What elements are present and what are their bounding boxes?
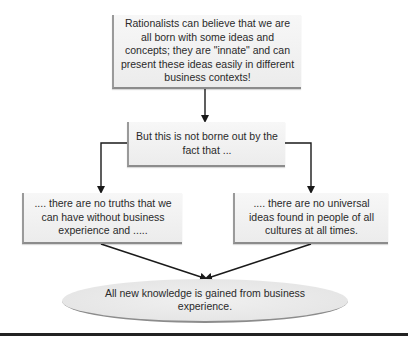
right-box: .... there are no universal ideas found … xyxy=(233,193,388,244)
left-box: .... there are no truths that we can hav… xyxy=(22,193,182,244)
middle-box-text: But this is not borne out by the fact th… xyxy=(134,130,280,157)
conclusion-ellipse: All new knowledge is gained from busines… xyxy=(62,279,348,323)
top-box: Rationalists can believe that we are all… xyxy=(112,15,301,89)
middle-box: But this is not borne out by the fact th… xyxy=(127,122,285,167)
arrow-middle-to-right xyxy=(285,143,311,190)
arrow-right-to-conclusion xyxy=(208,244,311,278)
bottom-rule xyxy=(0,333,408,336)
conclusion-text: All new knowledge is gained from busines… xyxy=(102,287,308,314)
right-box-text: .... there are no universal ideas found … xyxy=(240,197,383,238)
left-box-text: .... there are no truths that we can hav… xyxy=(29,197,177,238)
arrow-left-to-conclusion xyxy=(101,244,204,278)
arrow-middle-to-left xyxy=(101,143,127,190)
top-box-text: Rationalists can believe that we are all… xyxy=(119,17,296,85)
